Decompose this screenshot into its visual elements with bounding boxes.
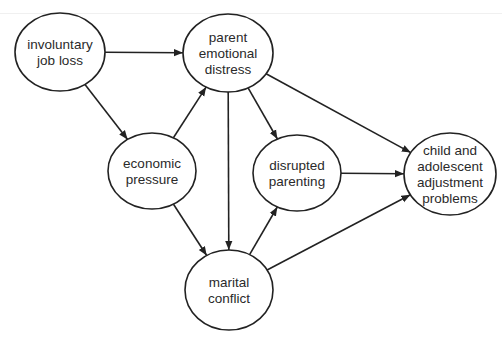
node-label-line: problems [422,191,478,206]
node-label-line: involuntary [27,37,93,52]
edge-economic-to-distress [173,87,206,138]
arrow-icon [250,207,278,255]
edge-job_loss-to-economic [85,84,128,139]
node-label-line: adjustment [417,175,483,190]
node-label-line: pressure [126,172,179,187]
node-label-line: conflict [208,291,250,306]
node-label-line: disrupted [269,158,325,173]
node-job_loss: involuntaryjob loss [15,13,105,91]
edge-distress-to-parenting [248,88,277,139]
node-marital: maritalconflict [185,250,273,330]
arrow-icon [173,87,206,138]
node-child: child andadolescentadjustmentproblems [404,133,496,215]
arrow-icon [248,88,277,139]
edge-economic-to-marital [174,204,207,255]
node-distress: parentemotionaldistress [183,14,273,92]
node-ellipse [253,135,341,211]
node-label-line: parenting [269,174,325,189]
nodes-layer: involuntaryjob lossparentemotionaldistre… [15,13,496,330]
arrow-icon [228,92,229,250]
path-diagram: involuntaryjob lossparentemotionaldistre… [0,0,502,341]
node-ellipse [185,250,273,330]
node-label-line: adolescent [417,159,483,174]
node-label-line: emotional [199,46,258,61]
arrow-icon [174,204,207,255]
node-label-line: job loss [36,53,83,68]
node-label-line: economic [123,156,181,171]
node-parenting: disruptedparenting [253,135,341,211]
node-ellipse [108,133,196,209]
arrow-icon [85,84,128,139]
node-label-line: distress [205,62,252,77]
edge-marital-to-parenting [250,207,278,255]
node-label-line: child and [423,143,477,158]
node-economic: economicpressure [108,133,196,209]
node-ellipse [15,13,105,91]
node-label-line: parent [209,30,248,45]
node-label-line: marital [209,275,250,290]
edge-distress-to-marital [228,92,229,250]
